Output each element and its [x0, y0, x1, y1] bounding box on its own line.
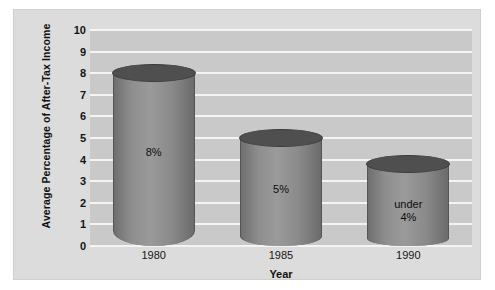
bar-top-ellipse — [112, 64, 196, 82]
y-axis-tick-label: 4 — [64, 154, 86, 165]
x-axis-tick-label: 1990 — [363, 250, 453, 261]
y-axis-tick-label: 3 — [64, 176, 86, 187]
bar-value-label: 8% — [113, 146, 195, 159]
y-axis-title: Average Percentage of After-Tax Income — [40, 18, 56, 234]
bar-top-ellipse — [239, 129, 323, 147]
x-axis-tick-label: 1980 — [109, 250, 199, 261]
bar: under 4% — [367, 164, 449, 246]
y-axis-tick-label: 0 — [64, 241, 86, 252]
plot-area: 8%5%under 4% — [90, 30, 472, 246]
y-axis-tick-label: 6 — [64, 111, 86, 122]
bar: 8% — [113, 73, 195, 246]
gridline — [90, 51, 472, 53]
y-axis-tick-label: 2 — [64, 197, 86, 208]
bar-top-ellipse — [366, 155, 450, 173]
x-axis-title: Year — [90, 268, 472, 280]
y-axis-tick-label: 10 — [64, 25, 86, 36]
y-axis-ticks: 012345678910 — [58, 30, 86, 246]
y-axis-tick-label: 8 — [64, 68, 86, 79]
y-axis-tick-label: 7 — [64, 89, 86, 100]
y-axis-tick-label: 5 — [64, 133, 86, 144]
bar-value-label: under 4% — [367, 198, 449, 224]
bar: 5% — [240, 138, 322, 246]
chart-figure: Average Percentage of After-Tax Income 0… — [0, 0, 495, 290]
x-axis-ticks: 198019851990 — [90, 250, 472, 266]
chart-frame: Average Percentage of After-Tax Income 0… — [13, 9, 481, 280]
gridline — [90, 29, 472, 31]
bar-value-label: 5% — [240, 183, 322, 196]
bar-body — [113, 73, 195, 246]
y-axis-tick-label: 1 — [64, 219, 86, 230]
x-axis-tick-label: 1985 — [236, 250, 326, 261]
y-axis-tick-label: 9 — [64, 46, 86, 57]
